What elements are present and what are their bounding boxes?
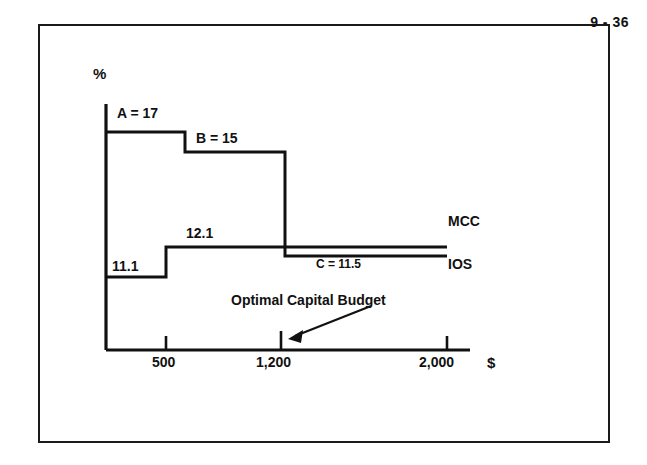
x-tick-label-500: 500: [152, 355, 175, 369]
annotation-arrow-head: [288, 330, 303, 343]
ios-step-curve: [106, 132, 447, 256]
y-axis-title: %: [93, 66, 106, 81]
annotation-arrow-shaft: [295, 306, 371, 336]
x-axis-title: $: [487, 355, 495, 370]
annotation-optimal-capital-budget: Optimal Capital Budget: [231, 293, 386, 307]
legend-label-mcc: MCC: [448, 214, 480, 228]
label-mcc-step-2: 12.1: [186, 226, 213, 240]
label-project-a: A = 17: [117, 106, 158, 120]
label-project-b: B = 15: [196, 131, 238, 145]
label-project-c: C = 11.5: [316, 258, 361, 270]
x-tick-label-1200: 1,200: [256, 355, 291, 369]
label-mcc-step-1: 11.1: [112, 259, 138, 273]
x-tick-label-2000: 2,000: [419, 355, 454, 369]
mcc-step-curve: [106, 247, 447, 277]
legend-label-ios: IOS: [448, 257, 472, 271]
slide-canvas: 9 - 36 % A = 17 B = 15 12.1 11.1 C = 11.…: [0, 0, 647, 465]
